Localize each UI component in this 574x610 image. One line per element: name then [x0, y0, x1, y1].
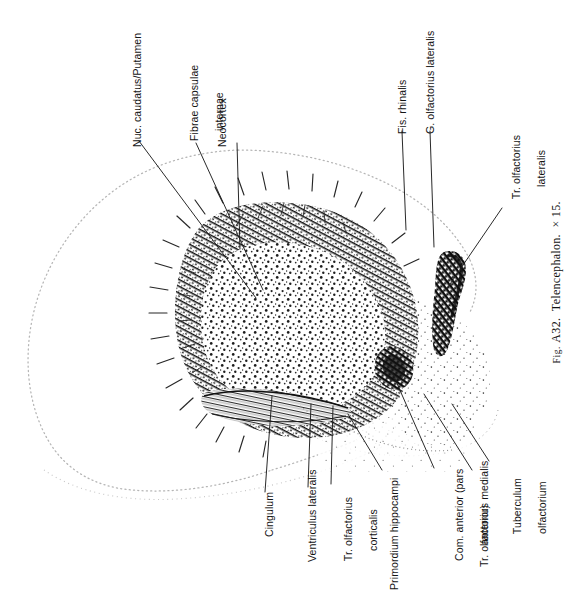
leader-g-olfactorius-lateralis: [430, 131, 434, 247]
label-fibrae-line1: Fibrae capsulae: [188, 65, 200, 141]
label-com-anterior-line1: Com. anterior (pars: [453, 469, 465, 561]
figure-number-prefix: Fig.: [552, 346, 562, 363]
label-tuberculum-olfactorium: Tuberculum olfactorium: [498, 478, 548, 540]
figure-magnification: × 15.: [549, 201, 563, 227]
label-tuberculum-line1: Tuberculum: [511, 478, 523, 534]
label-g-olfactorius-lateralis: G. olfactorius lateralis: [424, 31, 436, 134]
label-tr-olf-cort-line2: corticalis: [367, 509, 380, 551]
label-cingulum: Cingulum: [263, 492, 275, 537]
label-nuc-caudatus-putamen: Nuc. caudatus/Putamen: [131, 33, 143, 147]
figure-title: Telencephalon.: [549, 234, 563, 311]
label-tr-olfactorius-corticalis: Tr. olfactorius corticalis: [329, 497, 379, 567]
label-ventriculus-lateralis: Ventriculus lateralis: [306, 469, 318, 562]
label-fis-rhinalis: Fis. rhinalis: [396, 80, 408, 134]
label-com-anterior-pars-anterior: Com. anterior (pars anterior): [440, 469, 490, 567]
figure-number: A32.: [549, 318, 563, 343]
leader-fis-rhinalis: [402, 131, 406, 230]
figure-caption: Fig. A32. Telencephalon. × 15.: [534, 201, 564, 370]
label-neocortex: Neocortex: [216, 98, 228, 147]
label-com-anterior-line2: anterior): [478, 505, 491, 545]
label-tuberculum-line2: olfactorium: [536, 482, 548, 534]
label-tr-olfactorius-lateralis: Tr. olfactorius lateralis: [497, 135, 547, 205]
leader-tr-olfactorius-lateralis: [446, 208, 502, 290]
label-tr-olf-lat-line1: Tr. olfactorius: [510, 135, 522, 199]
label-primordium-hippocampi: Primordium hippocampi: [388, 478, 400, 590]
label-tr-olf-cort-line1: Tr. olfactorius: [342, 497, 354, 561]
label-tr-olf-lat-line2: lateralis: [535, 150, 548, 187]
